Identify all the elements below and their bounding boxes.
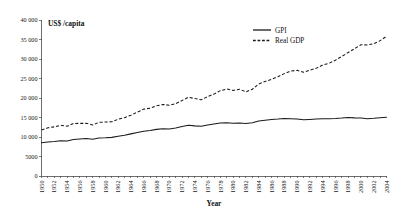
x-tick-label: 1972 [178, 181, 185, 193]
x-tick-label: 1992 [306, 181, 313, 193]
legend-label: GPI [275, 27, 287, 35]
x-tick-label: 1968 [153, 181, 160, 193]
y-tick-label: 25 000 [20, 75, 37, 82]
x-tick-label: 1952 [50, 181, 57, 193]
series-line-real-gdp [42, 36, 387, 130]
x-tick-label: 1996 [332, 181, 339, 193]
chart-container: 0500010 00015 00020 00025 00030 00035 00… [0, 0, 397, 210]
x-tick-label: 1988 [280, 181, 287, 193]
y-tick-label: 40 000 [20, 16, 37, 23]
x-tick-label: 1950 [38, 181, 45, 193]
x-tick-label: 1954 [63, 181, 70, 193]
y-tick-label: 15 000 [20, 114, 37, 121]
y-tick-label: 5000 [25, 153, 37, 160]
x-tick-label: 1984 [255, 181, 262, 193]
legend-label: Real GDP [275, 37, 304, 45]
y-tick-label: 35 000 [20, 36, 37, 43]
y-tick-label: 0 [34, 172, 37, 179]
x-tick-label: 1964 [127, 181, 134, 193]
x-tick-label: 1958 [89, 181, 96, 193]
x-axis-title: Year [207, 199, 222, 208]
x-tick-label: 1986 [268, 181, 275, 193]
x-tick-label: 1960 [102, 181, 109, 193]
x-tick-label: 1980 [229, 181, 236, 193]
x-tick-label: 1990 [293, 181, 300, 193]
x-tick-label: 1974 [191, 181, 198, 193]
x-tick-label: 1978 [217, 181, 224, 193]
x-tick-label: 1994 [319, 181, 326, 193]
line-chart: 0500010 00015 00020 00025 00030 00035 00… [0, 0, 397, 210]
x-tick-label: 1970 [165, 181, 172, 193]
y-tick-label: 30 000 [20, 55, 37, 62]
x-tick-label: 2002 [370, 181, 377, 193]
x-tick-label: 2004 [383, 181, 390, 193]
y-axis-title: US$ /capita [48, 19, 85, 28]
x-tick-label: 1962 [114, 181, 121, 193]
x-tick-label: 1998 [344, 181, 351, 193]
x-tick-label: 1976 [204, 181, 211, 193]
x-tick-label: 1982 [242, 181, 249, 193]
x-tick-label: 1966 [140, 181, 147, 193]
y-tick-label: 10 000 [20, 133, 37, 140]
x-tick-label: 1956 [76, 181, 83, 193]
y-tick-label: 20 000 [20, 94, 37, 101]
series-line-gpi [42, 117, 387, 143]
x-tick-label: 2000 [357, 181, 364, 193]
